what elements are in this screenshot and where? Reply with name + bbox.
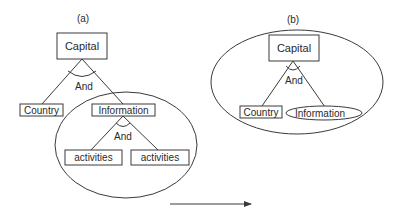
panel-a-caption: (a) (77, 13, 89, 24)
and-label-b: And (285, 75, 303, 86)
panel-a: (a) And Capital Country And Information (20, 13, 197, 199)
node-information-label: Information (98, 105, 148, 116)
node-capital-label: Capital (65, 40, 99, 52)
and-label-information: And (114, 131, 132, 142)
and-label-root: And (75, 81, 93, 92)
node-country: Country (20, 104, 63, 116)
node-activities-1: activities (65, 150, 122, 165)
node-b-capital: Capital (269, 35, 319, 61)
panel-b: (b) And Capital Country Information (211, 14, 383, 135)
and-arc-root (68, 71, 96, 77)
node-activities-1-label: activities (74, 152, 112, 163)
panel-b-caption: (b) (287, 14, 299, 25)
node-activities-2: activities (131, 150, 189, 165)
node-capital: Capital (57, 33, 107, 59)
node-b-capital-label: Capital (277, 42, 311, 54)
node-b-information-label: Information (295, 108, 345, 119)
node-information: Information (92, 104, 155, 116)
node-activities-2-label: activities (141, 152, 179, 163)
node-country-label: Country (24, 105, 59, 116)
node-b-country-label: Country (243, 107, 278, 118)
and-arc-information (116, 123, 130, 127)
node-b-information: Information (286, 106, 362, 120)
diagram-canvas: (a) And Capital Country And Information (0, 0, 400, 218)
node-b-country: Country (240, 106, 282, 118)
and-arc-b (286, 66, 300, 70)
